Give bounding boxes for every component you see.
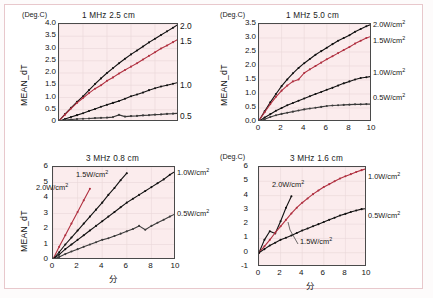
- ytick-bl-4: 4: [26, 192, 48, 201]
- legend-item-tr-3: 0.5W/cm2: [373, 93, 405, 102]
- xtick-br-4: 8: [336, 268, 352, 277]
- legend-item-tr-1: 1.5W/cm2: [373, 36, 405, 45]
- chart-title-top-left: 1 MHz 2.5 cm: [82, 11, 135, 20]
- chart-panel-top-right: (Deg.C) 1 MHz 5.0 cm MEAN_dT 0.00.51.01.…: [218, 8, 428, 148]
- inline-label-br-1: 1.5W/cm2: [300, 237, 332, 246]
- ytick-bl-1: 1: [26, 239, 48, 248]
- ytick-br-7: 6: [226, 161, 248, 170]
- xtick-bl-2: 4: [93, 261, 109, 270]
- legend-item-tr-0: 2.0W/cm2: [373, 20, 405, 29]
- xtick-bl-1: 2: [69, 261, 85, 270]
- ytick-br-3: 2: [226, 218, 248, 227]
- ytick-tr-5: 2.5: [226, 46, 256, 55]
- x-axis-label-bl: 分: [109, 272, 117, 284]
- ytick-tr-3: 1.5: [226, 74, 256, 83]
- ytick-tl-2: 1.0: [26, 92, 56, 101]
- ytick-tr-4: 2.0: [226, 60, 256, 69]
- legend-item-bl-1: 0.5W/cm2: [177, 209, 209, 218]
- ytick-bl-6: 6: [26, 161, 48, 170]
- xtick-br-3: 6: [315, 268, 331, 277]
- chart-title-bottom-left: 3 MHz 0.8 cm: [86, 154, 139, 163]
- xtick-br-5: 10: [358, 268, 374, 277]
- right-tick-tl-2: 1.0: [180, 80, 192, 90]
- chart-panel-top-left: (Deg.C) 1 MHz 2.5 cm MEAN_dT 00.51.01.52…: [10, 8, 215, 148]
- right-tick-tl-1: 1.5: [180, 36, 192, 46]
- chart-panel-bottom-left: 3 MHz 0.8 cm MEAN_dT 0123456 0246810 分 1…: [10, 152, 215, 294]
- ytick-tl-0: 0: [26, 116, 56, 125]
- ytick-br-2: 1: [226, 232, 248, 241]
- ytick-br-1: 0: [226, 247, 248, 256]
- legend-item-br-0: 1.0W/cm2: [368, 172, 400, 181]
- xtick-bl-0: 0: [44, 261, 60, 270]
- inline-label-bl-0: 1.5W/cm2: [76, 170, 108, 179]
- ytick-tl-8: 4.0: [26, 18, 56, 27]
- figure-container: (Deg.C) 1 MHz 2.5 cm MEAN_dT 00.51.01.52…: [0, 0, 433, 298]
- xtick-br-1: 2: [272, 268, 288, 277]
- plot-area-top-right: [258, 23, 371, 121]
- ytick-tl-6: 3.0: [26, 43, 56, 52]
- ytick-tl-5: 2.5: [26, 55, 56, 64]
- inline-label-bl-1: 2.0W/cm2: [36, 183, 68, 192]
- chart-lines-bl: [53, 167, 175, 259]
- ytick-br-6: 5: [226, 175, 248, 184]
- ytick-tl-4: 2.0: [26, 67, 56, 76]
- xtick-tr-1: 2: [273, 123, 289, 132]
- ytick-tl-1: 0.5: [26, 104, 56, 113]
- x-axis-label-br: 分: [306, 279, 314, 291]
- chart-title-top-right: 1 MHz 5.0 cm: [286, 11, 339, 20]
- xtick-bl-3: 6: [118, 261, 134, 270]
- right-tick-tl-0: 2.0: [180, 21, 192, 31]
- inline-label-br-0: 2.0W/cm2: [272, 180, 304, 189]
- ytick-br-5: 4: [226, 190, 248, 199]
- xtick-tr-0: 0: [250, 123, 266, 132]
- xtick-tr-3: 6: [318, 123, 334, 132]
- chart-title-bottom-right: 3 MHz 1.6 cm: [290, 154, 343, 163]
- ytick-bl-3: 3: [26, 208, 48, 217]
- ytick-br-0: -1: [226, 261, 248, 270]
- chart-lines-tr: [259, 24, 371, 121]
- ytick-br-4: 3: [226, 204, 248, 213]
- xtick-br-0: 0: [250, 268, 266, 277]
- xtick-br-2: 4: [293, 268, 309, 277]
- ytick-tr-7: 3.5: [226, 18, 256, 27]
- y-unit-label-br: (Deg.C): [220, 152, 245, 161]
- ytick-tl-7: 3.5: [26, 30, 56, 39]
- xtick-tr-4: 8: [340, 123, 356, 132]
- legend-item-br-1: 0.5W/cm2: [368, 211, 400, 220]
- legend-item-tr-2: 1.0W/cm2: [373, 68, 405, 77]
- chart-panel-bottom-right: (Deg.C) 3 MHz 1.6 cm -10123456 0246810 分…: [218, 152, 428, 294]
- xtick-tr-5: 10: [363, 123, 379, 132]
- ytick-bl-2: 2: [26, 223, 48, 232]
- plot-area-top-left: [58, 23, 178, 121]
- legend-item-bl-0: 1.0W/cm2: [177, 168, 209, 177]
- chart-lines-tl: [59, 24, 178, 121]
- ytick-tr-2: 1.0: [226, 88, 256, 97]
- xtick-bl-4: 8: [142, 261, 158, 270]
- right-tick-tl-3: 0.5: [180, 111, 192, 121]
- ytick-tl-3: 1.5: [26, 79, 56, 88]
- plot-area-bottom-left: [52, 166, 175, 259]
- xtick-bl-5: 10: [167, 261, 183, 270]
- y-axis-label-tr: MEAN_dT: [219, 64, 229, 106]
- xtick-tr-2: 4: [295, 123, 311, 132]
- ytick-tr-6: 3.0: [226, 32, 256, 41]
- ytick-tr-1: 0.5: [226, 102, 256, 111]
